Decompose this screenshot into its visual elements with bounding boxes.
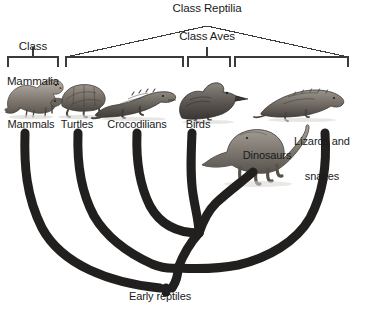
taxon-label-mammals: Mammals bbox=[8, 119, 55, 131]
branch-turtles bbox=[78, 133, 178, 268]
bracket-reptilia-left bbox=[66, 57, 183, 67]
class-mammalia-label-line1: Class bbox=[7, 41, 59, 53]
crocodile-illustration bbox=[92, 89, 176, 121]
branch-dinosaurs bbox=[199, 172, 253, 233]
phylogenetic-tree-diagram: Class Mammalia Class Reptilia Class Aves… bbox=[0, 0, 366, 317]
branch-birds bbox=[191, 133, 199, 233]
bracket-aves bbox=[188, 57, 230, 67]
taxon-label-lizards-line2: snakes bbox=[294, 171, 350, 183]
taxon-label-dinosaurs: Dinosaurs bbox=[243, 150, 292, 162]
class-mammalia-label: Class Mammalia bbox=[7, 18, 59, 110]
root-label-early-reptiles: Early reptiles bbox=[129, 291, 191, 303]
class-reptilia-label: Class Reptilia bbox=[173, 3, 242, 15]
taxon-label-turtles: Turtles bbox=[61, 119, 94, 131]
taxon-label-birds: Birds bbox=[186, 119, 211, 131]
taxon-label-lizards-and-snakes: Lizards and snakes bbox=[294, 113, 350, 205]
taxon-label-lizards-line1: Lizards and bbox=[294, 136, 350, 148]
class-mammalia-label-line2: Mammalia bbox=[7, 76, 59, 88]
branch-archosaur-stem bbox=[178, 233, 199, 268]
bracket-reptilia-right bbox=[235, 57, 348, 67]
class-aves-label: Class Aves bbox=[179, 31, 235, 43]
taxon-label-crocodilians: Crocodilians bbox=[107, 119, 166, 131]
